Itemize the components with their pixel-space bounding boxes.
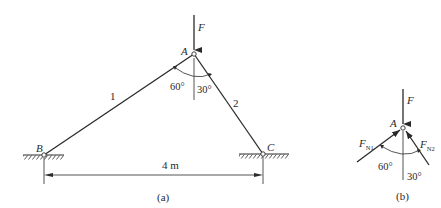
fb-angle-arrow-left-icon xyxy=(380,145,384,149)
fb-pin-a xyxy=(401,126,405,130)
load-label-f: F xyxy=(197,21,205,33)
angle-label-30: 30° xyxy=(197,84,212,95)
node-label-a: A xyxy=(180,45,188,57)
pin-a xyxy=(192,52,196,56)
fb-angle-arc xyxy=(381,146,420,154)
member-1 xyxy=(44,54,194,155)
angle-arc xyxy=(174,67,211,77)
fb-angle-label-60: 60° xyxy=(378,161,393,172)
dimension-label: 4 m xyxy=(162,159,179,171)
figure-a: F A B C 1 2 60° 30° 4 m (a) xyxy=(23,15,289,204)
figure-b: F A FN1 FN2 60° 30° (b) xyxy=(357,89,435,203)
angle-label-60: 60° xyxy=(170,81,185,92)
node-label-b: B xyxy=(36,142,43,154)
dimension-line xyxy=(44,157,263,184)
member-label-1: 1 xyxy=(110,90,116,102)
pin-c xyxy=(261,152,265,156)
caption-a: (a) xyxy=(157,191,170,204)
force-label-fn1: FN1 xyxy=(358,137,374,151)
fb-angle-label-30: 30° xyxy=(407,171,422,182)
force-label-fn2: FN2 xyxy=(419,138,435,152)
node-label-c: C xyxy=(267,141,275,153)
member-label-2: 2 xyxy=(233,97,239,109)
truss-diagram: F A B C 1 2 60° 30° 4 m (a) F A FN1 FN2 xyxy=(0,0,441,208)
caption-b: (b) xyxy=(396,190,409,203)
member-2 xyxy=(194,54,263,154)
fb-node-label-a: A xyxy=(389,117,397,129)
fb-load-label-f: F xyxy=(406,94,414,106)
